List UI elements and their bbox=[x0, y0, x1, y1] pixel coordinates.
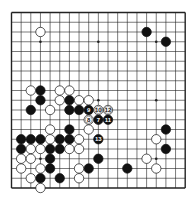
white-stone[interactable] bbox=[36, 27, 45, 36]
black-stone[interactable] bbox=[161, 37, 170, 46]
star-point bbox=[155, 157, 158, 160]
white-stone[interactable] bbox=[65, 144, 74, 153]
black-stone[interactable] bbox=[36, 174, 45, 183]
move-number-label: 11 bbox=[105, 117, 112, 123]
black-stone[interactable] bbox=[26, 135, 35, 144]
black-stone[interactable] bbox=[55, 174, 64, 183]
white-stone[interactable] bbox=[84, 96, 93, 105]
white-stone[interactable] bbox=[74, 144, 83, 153]
white-stone[interactable] bbox=[55, 86, 64, 95]
white-stone[interactable] bbox=[74, 174, 83, 183]
white-stone[interactable] bbox=[26, 174, 35, 183]
star-point bbox=[97, 40, 100, 43]
white-stone[interactable] bbox=[26, 86, 35, 95]
black-stone[interactable] bbox=[142, 27, 151, 36]
black-stone[interactable] bbox=[36, 135, 45, 144]
black-stone[interactable] bbox=[94, 154, 103, 163]
black-stone[interactable] bbox=[74, 105, 83, 114]
black-stone[interactable] bbox=[161, 125, 170, 134]
white-stone[interactable] bbox=[74, 96, 83, 105]
black-stone[interactable] bbox=[65, 125, 74, 134]
star-point bbox=[155, 99, 158, 102]
white-stone[interactable] bbox=[74, 164, 83, 173]
white-stone[interactable]: 12 bbox=[103, 105, 112, 114]
black-stone[interactable]: 7 bbox=[94, 115, 103, 124]
black-stone[interactable] bbox=[55, 144, 64, 153]
black-stone[interactable] bbox=[84, 164, 93, 173]
black-stone[interactable] bbox=[45, 154, 54, 163]
move-number-label: 10 bbox=[95, 107, 102, 113]
white-stone[interactable] bbox=[36, 183, 45, 192]
black-stone[interactable] bbox=[161, 144, 170, 153]
black-stone[interactable] bbox=[45, 144, 54, 153]
black-stone[interactable] bbox=[65, 96, 74, 105]
white-stone[interactable] bbox=[152, 135, 161, 144]
white-stone[interactable]: 8 bbox=[84, 115, 93, 124]
black-stone[interactable] bbox=[16, 144, 25, 153]
black-stone[interactable]: 9 bbox=[84, 105, 93, 114]
black-stone[interactable]: 11 bbox=[103, 115, 112, 124]
white-stone[interactable] bbox=[45, 125, 54, 134]
white-stone[interactable] bbox=[84, 125, 93, 134]
black-stone[interactable] bbox=[65, 105, 74, 114]
star-point bbox=[155, 40, 158, 43]
white-stone[interactable] bbox=[36, 164, 45, 173]
black-stone[interactable] bbox=[45, 164, 54, 173]
move-number-label: 13 bbox=[95, 136, 102, 142]
white-stone[interactable] bbox=[142, 154, 151, 163]
black-stone[interactable]: 13 bbox=[94, 135, 103, 144]
white-stone[interactable] bbox=[65, 86, 74, 95]
white-stone[interactable] bbox=[45, 105, 54, 114]
white-stone[interactable] bbox=[26, 144, 35, 153]
white-stone[interactable] bbox=[74, 135, 83, 144]
move-number-label: 12 bbox=[105, 107, 112, 113]
white-stone[interactable] bbox=[55, 96, 64, 105]
white-stone[interactable] bbox=[36, 144, 45, 153]
white-stone[interactable] bbox=[16, 154, 25, 163]
white-stone[interactable] bbox=[16, 164, 25, 173]
black-stone[interactable] bbox=[65, 135, 74, 144]
white-stone[interactable] bbox=[45, 135, 54, 144]
star-point bbox=[39, 40, 42, 43]
white-stone[interactable] bbox=[26, 154, 35, 163]
white-stone[interactable] bbox=[152, 164, 161, 173]
white-stone[interactable]: 10 bbox=[94, 105, 103, 114]
black-stone[interactable] bbox=[123, 164, 132, 173]
black-stone[interactable] bbox=[36, 96, 45, 105]
black-stone[interactable] bbox=[55, 135, 64, 144]
star-point bbox=[97, 99, 100, 102]
black-stone[interactable] bbox=[26, 105, 35, 114]
black-stone[interactable] bbox=[16, 135, 25, 144]
star-point bbox=[39, 157, 42, 160]
go-board[interactable]: 97111310128 bbox=[0, 0, 194, 202]
black-stone[interactable] bbox=[36, 86, 45, 95]
